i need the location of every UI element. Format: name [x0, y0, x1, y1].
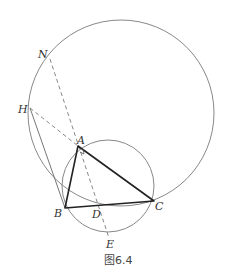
figure-caption: 图6.4 — [104, 254, 133, 267]
label-b: B — [53, 207, 62, 220]
triangle-abc — [65, 146, 154, 208]
label-d: D — [91, 208, 101, 221]
label-e: E — [105, 238, 114, 251]
label-c: C — [155, 200, 164, 213]
label-h: H — [17, 103, 28, 116]
label-n: N — [37, 48, 48, 61]
label-a: A — [76, 134, 85, 147]
dashed-line-ha — [30, 108, 78, 146]
line-hb — [30, 108, 65, 208]
geometry-figure: N H A B D C E 图6.4 — [0, 0, 234, 279]
